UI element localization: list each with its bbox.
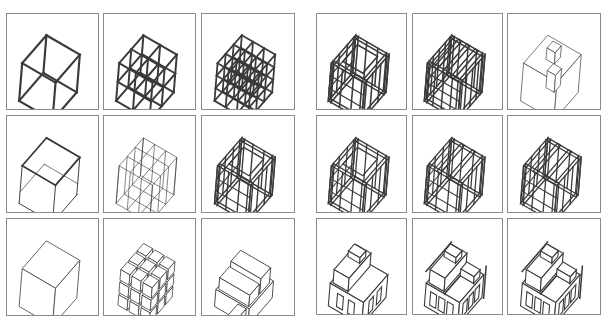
wire-cube-drawing [7, 14, 98, 109]
left-group-panel-r2-c0 [6, 218, 99, 316]
frame-layers-drawing [317, 116, 406, 212]
left-group-panel-r0-c1 [103, 13, 196, 110]
house-drawing [317, 219, 406, 314]
wire-cube-drawing [202, 14, 294, 109]
frame-stripes-drawing [413, 116, 502, 212]
right-group-panel-r2-c1 [412, 218, 503, 315]
open-box-drawing [7, 116, 98, 212]
right-group-panel-r2-c0 [316, 218, 407, 315]
frame-stripes-drawing [508, 116, 600, 212]
frame-layers-drawing [317, 14, 406, 109]
right-group-panel-r0-c2 [507, 13, 601, 110]
left-group-panel-r2-c2 [201, 218, 295, 316]
left-group-panel-r1-c0 [6, 115, 99, 213]
left-group-panel-r1-c2 [201, 115, 295, 213]
left-group-panel-r0-c2 [201, 13, 295, 110]
frame-layers-drawing [202, 116, 294, 212]
box-with-voids-drawing [508, 14, 600, 109]
wire-cube-drawing [104, 14, 195, 109]
left-group-panel-r1-c1 [103, 115, 196, 213]
right-group-panel-r2-c2 [507, 218, 601, 315]
right-group-panel-r1-c1 [412, 115, 503, 213]
left-group-panel-r2-c1 [103, 218, 196, 316]
right-group-panel-r1-c0 [316, 115, 407, 213]
right-group-panel-r0-c1 [412, 13, 503, 110]
house-detailed-drawing [508, 219, 600, 314]
left-group-panel-r0-c0 [6, 13, 99, 110]
house-detailed-drawing [413, 219, 502, 314]
block-cube-drawing [104, 219, 195, 315]
slab-cube-drawing [104, 116, 195, 212]
solid-cube-drawing [7, 219, 98, 315]
right-group-panel-r0-c0 [316, 13, 407, 110]
massing-drawing [202, 219, 294, 315]
right-group-panel-r1-c2 [507, 115, 601, 213]
frame-stripes-drawing [413, 14, 502, 109]
